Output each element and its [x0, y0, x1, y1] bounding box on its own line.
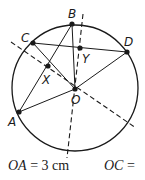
segment-BO	[72, 24, 75, 89]
label-Y: Y	[82, 52, 91, 66]
caption-oa: OA = 3 cm	[8, 158, 69, 174]
oc-variable: OC	[104, 158, 123, 173]
point-A	[16, 109, 21, 114]
label-D: D	[124, 35, 133, 49]
dashed-bisector-BD	[67, 14, 83, 158]
point-D	[124, 49, 129, 54]
point-Y	[77, 45, 82, 50]
label-X: X	[41, 73, 51, 87]
segment-AO	[19, 89, 75, 112]
caption-oc: OC =	[104, 158, 135, 174]
label-C: C	[21, 31, 30, 45]
segment-CO	[33, 43, 75, 89]
circle-diagram: A B C D O X Y	[0, 0, 145, 180]
point-C	[30, 40, 35, 45]
label-A: A	[7, 115, 16, 129]
label-B: B	[68, 7, 76, 21]
point-O	[72, 86, 77, 91]
label-O: O	[71, 93, 80, 107]
oa-variable: OA	[8, 158, 27, 173]
point-B	[69, 21, 74, 26]
caption: OA = 3 cm OC =	[0, 158, 145, 178]
oc-value: =	[127, 158, 135, 173]
point-X	[45, 63, 50, 68]
oa-value: = 3 cm	[30, 158, 69, 173]
